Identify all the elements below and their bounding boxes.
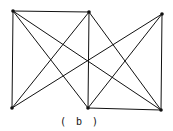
node-BL — [10, 106, 14, 110]
node-TL — [11, 9, 15, 13]
node-BM — [86, 106, 90, 110]
node-TM — [87, 10, 91, 14]
edge-TR-BM — [88, 14, 162, 108]
edge-TR-BR — [161, 14, 162, 110]
figure-caption: ( b ) — [0, 116, 160, 127]
edge-TL-TM — [13, 11, 89, 12]
edge-TL-BL — [12, 11, 13, 108]
node-BR — [159, 108, 163, 112]
node-TR — [160, 12, 164, 16]
edge-BM-BR — [88, 108, 161, 110]
graph-diagram — [0, 0, 173, 131]
edge-TR-BL — [12, 14, 162, 108]
